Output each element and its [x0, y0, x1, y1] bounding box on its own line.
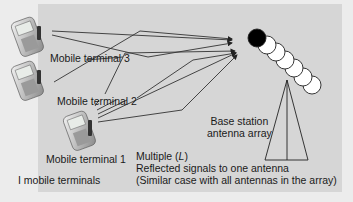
multipath-prefix: Multiple (: [136, 150, 179, 162]
label-multipath: Multiple (L) Reflected signals to one an…: [136, 150, 337, 186]
label-multipath-line1: Multiple (L): [136, 150, 337, 162]
label-multipath-line2: Reflected signals to one antenna: [136, 162, 337, 174]
label-terminal-1: Mobile terminal 1: [46, 153, 126, 165]
signal-paths: [52, 31, 237, 122]
mobile-terminal-2-icon: [10, 60, 45, 102]
label-base-station-line2: antenna array: [207, 127, 272, 139]
mobile-terminal-3-icon: [10, 16, 45, 58]
antenna-array: [248, 29, 321, 94]
label-base-station-line1: Base station: [207, 115, 272, 127]
label-terminal-3: Mobile terminal 3: [50, 52, 130, 64]
label-multipath-line3: (Similar case with all antennas in the a…: [136, 174, 337, 186]
label-terminal-count: I mobile terminals: [18, 174, 100, 186]
multipath-suffix: ): [184, 150, 188, 162]
active-antenna-element: [248, 29, 266, 47]
label-base-station: Base station antenna array: [207, 115, 272, 139]
mobile-terminal-1-icon: [62, 110, 97, 152]
label-terminal-2: Mobile terminal 2: [57, 95, 137, 107]
